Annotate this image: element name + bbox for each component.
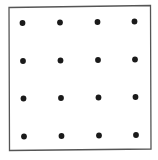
- grid-dot-r2-c2: [58, 58, 64, 64]
- grid-dot-r2-c3: [95, 57, 101, 63]
- square-border: [9, 6, 151, 151]
- grid-dot-r2-c1: [20, 58, 26, 64]
- grid-dot-r1-c2: [57, 20, 63, 26]
- dots-group: [20, 19, 139, 140]
- dot-grid-canvas: [0, 0, 158, 160]
- grid-dot-r2-c4: [132, 57, 138, 63]
- grid-dot-r4-c3: [96, 133, 102, 139]
- grid-dot-r3-c2: [58, 95, 64, 101]
- grid-dot-r4-c1: [21, 134, 27, 140]
- grid-dot-r3-c3: [96, 95, 102, 101]
- grid-dot-r4-c2: [59, 133, 65, 139]
- dot-grid-diagram: [0, 0, 158, 160]
- grid-dot-r4-c4: [133, 132, 139, 138]
- grid-dot-r1-c3: [95, 19, 101, 25]
- grid-dot-r3-c1: [21, 96, 27, 102]
- grid-dot-r1-c4: [132, 19, 138, 25]
- grid-dot-r1-c1: [20, 20, 26, 26]
- grid-dot-r3-c4: [133, 94, 139, 100]
